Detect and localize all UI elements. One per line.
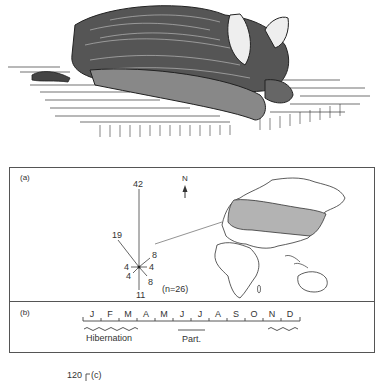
panel-c-label: (c) xyxy=(91,370,102,380)
panel-c-axis xyxy=(0,0,380,381)
